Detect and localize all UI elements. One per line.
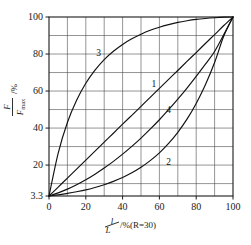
y-axis-tick-label: 40 xyxy=(33,122,43,133)
x-axis-tick-label: 0 xyxy=(47,201,52,212)
x-axis-tick-label: 100 xyxy=(226,201,241,212)
y-axis-label: F Fmax /% xyxy=(2,83,26,116)
y-axis-tick-label: 100 xyxy=(28,11,43,22)
svg-text:L: L xyxy=(104,225,110,235)
y-axis-tick-label: 60 xyxy=(33,85,43,96)
y-axis-tick-label: 3.3 xyxy=(31,190,44,201)
x-axis-label-denominator: L xyxy=(104,225,110,235)
svg-text:Fmax: Fmax xyxy=(15,98,26,116)
y-axis-tick-label: 20 xyxy=(33,159,43,170)
curve-labels: 1234 xyxy=(96,48,171,167)
x-axis-tick-label: 80 xyxy=(191,201,201,212)
y-axis-label-suffix: /% xyxy=(9,83,19,94)
curve-label-4: 4 xyxy=(166,105,171,115)
valve-flow-characteristic-chart: 3.320406080100 020406080100 1234 F Fmax … xyxy=(0,0,251,245)
x-axis-tick-label: 20 xyxy=(81,201,91,212)
x-axis-tick-label: 40 xyxy=(118,201,128,212)
y-axis-label-numerator: F xyxy=(2,104,12,111)
curve-label-1: 1 xyxy=(152,79,157,89)
chart-canvas: 3.320406080100 020406080100 1234 F Fmax … xyxy=(0,0,251,245)
curve-label-3: 3 xyxy=(96,48,101,58)
curve-label-2: 2 xyxy=(166,157,171,167)
x-axis-tick-label: 60 xyxy=(154,201,164,212)
y-axis-label-denominator-subscript: max xyxy=(19,98,26,110)
svg-text:F: F xyxy=(2,104,12,111)
x-axis-label-suffix: /%(R=30) xyxy=(120,220,156,230)
y-axis-tick-labels: 3.320406080100 xyxy=(28,11,43,201)
x-axis-tick-labels: 020406080100 xyxy=(47,201,241,212)
x-axis-label: l L /%(R=30) xyxy=(104,216,156,235)
y-axis-tick-label: 80 xyxy=(33,48,43,59)
